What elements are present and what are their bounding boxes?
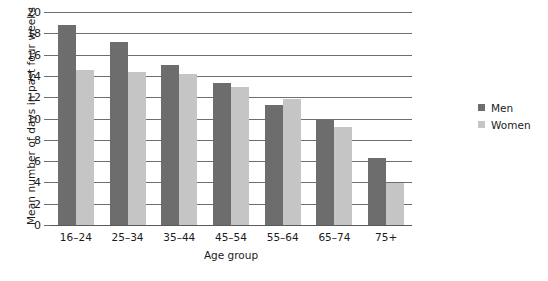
x-tick-label-4: 55–64 (267, 231, 299, 243)
bar-women-3 (231, 87, 249, 225)
legend-swatch-icon (478, 104, 485, 111)
legend: MenWomen (478, 99, 531, 133)
bar-group (153, 12, 205, 225)
y-tick-label-18: 18 (27, 28, 41, 39)
gridline-0 (50, 225, 412, 226)
y-tick-label-6: 6 (34, 156, 41, 167)
y-tick-label-2: 2 (34, 198, 41, 209)
y-tick-label-0: 0 (34, 220, 41, 231)
bar-group (360, 12, 412, 225)
x-tick-label-2: 35–44 (163, 231, 195, 243)
bar-group (309, 12, 361, 225)
x-tick-label-1: 25–34 (112, 231, 144, 243)
bar-women-2 (179, 74, 197, 225)
bar-women-0 (76, 70, 94, 225)
bar-men-5 (316, 120, 334, 225)
legend-label: Women (491, 119, 531, 131)
bar-women-4 (283, 99, 301, 225)
bar-men-1 (110, 42, 128, 225)
y-tick-label-20: 20 (27, 7, 41, 18)
bar-chart: Mean number of days in past four weeks 2… (0, 0, 548, 281)
legend-label: Men (491, 102, 513, 114)
y-tick-label-4: 4 (34, 177, 41, 188)
bar-group (50, 12, 102, 225)
bar-series-container (50, 12, 412, 225)
plot-area: 20181614121086420 (50, 12, 412, 225)
y-tick-label-12: 12 (27, 92, 41, 103)
bar-group (257, 12, 309, 225)
x-axis-title: Age group (50, 249, 412, 261)
bar-group (102, 12, 154, 225)
x-tick-label-3: 45–54 (215, 231, 247, 243)
x-tick-label-0: 16–24 (60, 231, 92, 243)
y-tick-label-8: 8 (34, 134, 41, 145)
y-tick-mark-0 (44, 225, 50, 226)
y-tick-label-14: 14 (27, 70, 41, 81)
bar-men-3 (213, 83, 231, 225)
bar-men-4 (265, 105, 283, 225)
bar-women-5 (334, 127, 352, 225)
bar-women-1 (128, 72, 146, 225)
bar-group (205, 12, 257, 225)
legend-item-women[interactable]: Women (478, 116, 531, 133)
x-tick-label-6: 75+ (375, 231, 397, 243)
bar-men-6 (368, 158, 386, 225)
x-tick-label-5: 65–74 (318, 231, 350, 243)
y-tick-label-16: 16 (27, 49, 41, 60)
bar-women-6 (386, 183, 404, 225)
bar-men-2 (161, 65, 179, 225)
legend-swatch-icon (478, 121, 485, 128)
y-tick-label-10: 10 (27, 113, 41, 124)
legend-item-men[interactable]: Men (478, 99, 531, 116)
bar-men-0 (58, 25, 76, 225)
